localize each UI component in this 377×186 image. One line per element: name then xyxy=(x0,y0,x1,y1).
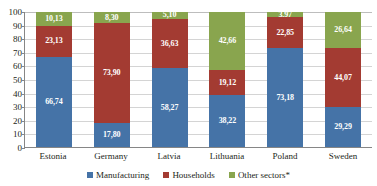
bar-segment[interactable]: 10,13 xyxy=(36,12,72,26)
x-axis-category-label: Estonia xyxy=(24,150,82,164)
bar-value-label: 26,64 xyxy=(334,26,352,34)
y-axis-tick-label: 80 xyxy=(0,35,22,44)
bar-group: 5,1036,6358,27 xyxy=(141,12,199,147)
bar-value-label: 19,12 xyxy=(219,79,237,87)
y-axis-tick-label: 50 xyxy=(0,76,22,85)
legend-label: Other sectors* xyxy=(238,171,290,180)
bar-segment[interactable]: 36,63 xyxy=(152,19,188,68)
chart-legend: ManufacturingHouseholdsOther sectors* xyxy=(0,168,377,182)
x-axis-category-label: Poland xyxy=(256,150,314,164)
y-axis-tick-label: 30 xyxy=(0,103,22,112)
stacked-bar-chart: 1009080706050403020100 10,1323,1366,748,… xyxy=(0,0,377,186)
x-axis-category-labels: EstoniaGermanyLatviaLithuaniaPolandSwede… xyxy=(24,150,372,164)
bar-value-label: 22,85 xyxy=(276,29,294,37)
bar-group: 10,1323,1366,74 xyxy=(25,12,83,147)
y-axis-tick-mark xyxy=(22,148,25,149)
y-axis-tick-label: 100 xyxy=(0,8,22,17)
y-axis-tick-label: 40 xyxy=(0,90,22,99)
bar-segment[interactable]: 73,90 xyxy=(94,23,130,123)
bar-segment[interactable]: 66,74 xyxy=(36,57,72,147)
legend-item[interactable]: Households xyxy=(163,171,215,180)
bar-segment[interactable]: 26,64 xyxy=(325,12,361,48)
y-axis-tick-label: 20 xyxy=(0,117,22,126)
bar-segment[interactable]: 5,10 xyxy=(152,12,188,19)
y-axis: 1009080706050403020100 xyxy=(0,12,22,148)
bar-group: 26,6444,0729,29 xyxy=(314,12,372,147)
y-axis-tick-label: 70 xyxy=(0,49,22,58)
bar-value-label: 17,80 xyxy=(103,131,121,139)
legend-swatch-icon xyxy=(229,172,235,178)
bar-groups: 10,1323,1366,748,3073,9017,805,1036,6358… xyxy=(25,12,372,147)
bar-stack: 3,9722,8573,18 xyxy=(267,12,303,147)
bar-value-label: 73,90 xyxy=(103,69,121,77)
bar-stack: 8,3073,9017,80 xyxy=(94,12,130,147)
bar-stack: 26,6444,0729,29 xyxy=(325,12,361,147)
bar-stack: 5,1036,6358,27 xyxy=(152,12,188,147)
bar-segment[interactable]: 44,07 xyxy=(325,48,361,107)
bar-segment[interactable]: 22,85 xyxy=(267,17,303,48)
bar-value-label: 66,74 xyxy=(45,98,63,106)
legend-label: Manufacturing xyxy=(96,171,149,180)
bar-value-label: 44,07 xyxy=(334,74,352,82)
x-axis-category-label: Germany xyxy=(82,150,140,164)
bar-value-label: 8,30 xyxy=(105,14,119,22)
legend-swatch-icon xyxy=(163,172,169,178)
legend-item[interactable]: Other sectors* xyxy=(229,171,290,180)
bar-value-label: 38,22 xyxy=(219,117,237,125)
plot-area: 10,1323,1366,748,3073,9017,805,1036,6358… xyxy=(24,12,372,148)
bar-value-label: 23,13 xyxy=(45,37,63,45)
bar-segment[interactable]: 73,18 xyxy=(267,48,303,147)
bar-segment[interactable]: 29,29 xyxy=(325,107,361,147)
x-axis-category-label: Latvia xyxy=(140,150,198,164)
legend-item[interactable]: Manufacturing xyxy=(87,171,149,180)
bar-value-label: 36,63 xyxy=(161,40,179,48)
bar-segment[interactable]: 38,22 xyxy=(209,95,245,147)
x-axis-category-label: Lithuania xyxy=(198,150,256,164)
y-axis-tick-label: 90 xyxy=(0,22,22,31)
y-axis-tick-label: 60 xyxy=(0,62,22,71)
bar-value-label: 73,18 xyxy=(276,94,294,102)
bar-value-label: 42,66 xyxy=(219,37,237,45)
legend-swatch-icon xyxy=(87,172,93,178)
bar-value-label: 58,27 xyxy=(161,104,179,112)
bar-segment[interactable]: 17,80 xyxy=(94,123,130,147)
bar-segment[interactable]: 19,12 xyxy=(209,70,245,96)
bar-group: 3,9722,8573,18 xyxy=(256,12,314,147)
bar-value-label: 29,29 xyxy=(334,123,352,131)
bar-segment[interactable]: 42,66 xyxy=(209,12,245,70)
bar-group: 42,6619,1238,22 xyxy=(198,12,256,147)
bar-value-label: 10,13 xyxy=(45,15,63,23)
x-axis-category-label: Sweden xyxy=(314,150,372,164)
y-axis-tick-label: 10 xyxy=(0,130,22,139)
y-axis-tick-label: 0 xyxy=(0,144,22,153)
bar-stack: 42,6619,1238,22 xyxy=(209,12,245,147)
bar-segment[interactable]: 23,13 xyxy=(36,26,72,57)
bar-segment[interactable]: 8,30 xyxy=(94,12,130,23)
legend-label: Households xyxy=(172,171,215,180)
bar-group: 8,3073,9017,80 xyxy=(83,12,141,147)
bar-segment[interactable]: 58,27 xyxy=(152,68,188,147)
bar-stack: 10,1323,1366,74 xyxy=(36,12,72,147)
